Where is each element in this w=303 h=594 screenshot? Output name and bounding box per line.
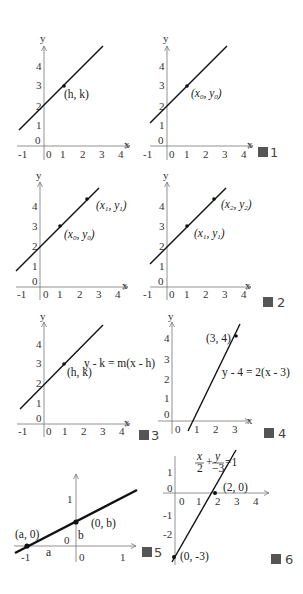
x-tick: 4 bbox=[241, 288, 247, 300]
y-tick: 1 bbox=[36, 397, 42, 409]
figure-1a: y x -1 0 1 2 3 4 0 1 2 3 4 (h, k) bbox=[17, 32, 130, 160]
x-tick: 2 bbox=[215, 495, 221, 507]
x-axis-label: x bbox=[247, 414, 253, 426]
y-tick: 3 bbox=[164, 353, 170, 365]
x-tick: 3 bbox=[100, 425, 106, 437]
x-tick: 4 bbox=[118, 148, 124, 160]
x-tick: 0 bbox=[43, 288, 49, 300]
figure-5: -1 0 1 0 1 (a, 0) (0, b) a b 5 bbox=[14, 474, 162, 563]
x-tick: 1 bbox=[194, 423, 200, 435]
y-tick: 1 bbox=[159, 260, 165, 272]
y-tick: 1 bbox=[164, 392, 170, 404]
x-tick: 2 bbox=[80, 148, 86, 160]
segment-b-label: b bbox=[78, 529, 84, 541]
x-tick: 1 bbox=[60, 148, 66, 160]
figure-icon bbox=[139, 430, 149, 440]
y-tick: -1 bbox=[163, 509, 172, 521]
x-tick: 0 bbox=[179, 495, 185, 507]
svg-text:=1: =1 bbox=[225, 456, 237, 468]
x-tick: 2 bbox=[203, 148, 209, 160]
figure-caption: 3 bbox=[151, 428, 159, 443]
y-axis-label: y bbox=[168, 310, 174, 322]
y-tick: 4 bbox=[36, 338, 42, 350]
x-tick: 4 bbox=[119, 425, 125, 437]
x-tick: 3 bbox=[222, 148, 228, 160]
x-tick: 3 bbox=[232, 423, 238, 435]
x-tick: 0 bbox=[169, 288, 175, 300]
x-tick: 4 bbox=[115, 288, 121, 300]
figure-2a: y x -1 0 1 2 3 4 0 1 2 3 4 (x1, y1) (x0,… bbox=[16, 169, 128, 300]
x-tick: 1 bbox=[184, 148, 190, 160]
x-tick: -1 bbox=[143, 288, 152, 300]
point-dot bbox=[185, 224, 189, 228]
x-tick: 2 bbox=[81, 425, 87, 437]
figure-icon bbox=[263, 297, 273, 307]
y-tick: 3 bbox=[159, 220, 165, 232]
y-tick: 4 bbox=[36, 60, 42, 72]
figure-icon bbox=[142, 547, 152, 557]
equation: y - 4 = 2(x - 3) bbox=[222, 366, 290, 379]
y-axis-label: y bbox=[163, 169, 169, 181]
y-tick: 0 bbox=[32, 275, 38, 287]
x-tick: 0 bbox=[46, 425, 52, 437]
x-tick: 3 bbox=[99, 148, 105, 160]
y-tick: 1 bbox=[32, 260, 38, 272]
point-dot bbox=[62, 362, 66, 366]
y-axis-label: y bbox=[163, 32, 169, 44]
x-tick: 0 bbox=[46, 148, 52, 160]
svg-text:2: 2 bbox=[197, 462, 203, 474]
point-label: (x0, y0) bbox=[64, 228, 95, 242]
x-axis-label: x bbox=[247, 138, 253, 150]
x-tick: 1 bbox=[184, 288, 190, 300]
y-tick: 3 bbox=[36, 79, 42, 91]
x-tick: -1 bbox=[17, 288, 26, 300]
point-dot bbox=[24, 543, 29, 548]
figure-sheet: y x -1 0 1 2 3 4 0 1 2 3 4 (h, k) y x -1… bbox=[0, 0, 303, 594]
intercept-equation: x 2 + y −3 =1 bbox=[195, 450, 237, 474]
figure-2b: y x -1 0 1 2 3 4 0 1 2 3 4 (x2, y2) (x1,… bbox=[143, 169, 285, 310]
point-dot bbox=[172, 555, 176, 559]
x-tick: 1 bbox=[196, 495, 202, 507]
point-label: (3, 4) bbox=[206, 332, 231, 345]
point-label: (0, -3) bbox=[180, 550, 209, 563]
x-tick: 1 bbox=[120, 551, 126, 563]
x-tick: 2 bbox=[77, 288, 83, 300]
y-tick: 0 bbox=[158, 134, 164, 146]
figure-caption: 6 bbox=[285, 552, 293, 567]
y-tick: 4 bbox=[32, 200, 38, 212]
y-tick: 3 bbox=[159, 79, 165, 91]
point-label: (h, k) bbox=[64, 88, 89, 101]
y-tick: 1 bbox=[167, 466, 173, 478]
x-tick: 3 bbox=[234, 495, 240, 507]
figure-3: y x -1 0 1 2 3 4 0 1 2 3 4 (h, k) y - k … bbox=[17, 310, 159, 443]
point-dot bbox=[213, 491, 217, 495]
y-tick: 0 bbox=[167, 482, 173, 494]
figure-caption: 1 bbox=[270, 145, 278, 160]
y-axis-label: y bbox=[40, 310, 46, 322]
point-label: (x2, y2) bbox=[221, 198, 252, 212]
figure-icon bbox=[258, 147, 268, 157]
figure-caption: 2 bbox=[277, 295, 285, 310]
y-tick: 1 bbox=[67, 493, 73, 505]
svg-text:−3: −3 bbox=[212, 462, 224, 474]
x-tick: 1 bbox=[57, 288, 63, 300]
x-tick: -1 bbox=[18, 425, 27, 437]
y-tick: 1 bbox=[36, 119, 42, 131]
point-label: (a, 0) bbox=[15, 528, 39, 541]
point-label: (x0, y0) bbox=[191, 87, 222, 101]
figure-caption: 5 bbox=[154, 545, 162, 560]
y-tick: 1 bbox=[159, 119, 165, 131]
x-tick: 3 bbox=[96, 288, 102, 300]
point-dot bbox=[212, 197, 216, 201]
x-tick: 0 bbox=[169, 148, 175, 160]
x-tick: -1 bbox=[21, 551, 30, 563]
y-tick: 0 bbox=[64, 534, 70, 546]
x-tick: -1 bbox=[143, 148, 152, 160]
point-dot bbox=[58, 224, 62, 228]
x-tick: 2 bbox=[213, 423, 219, 435]
y-tick: 3 bbox=[32, 220, 38, 232]
x-tick: 4 bbox=[241, 148, 247, 160]
y-axis-label: y bbox=[36, 169, 42, 181]
y-tick: 0 bbox=[164, 408, 170, 420]
y-axis-label: y bbox=[40, 32, 46, 44]
